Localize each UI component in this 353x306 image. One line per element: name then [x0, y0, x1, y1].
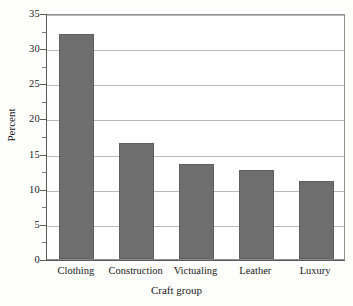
- y-tick-mark: [40, 14, 46, 15]
- bar: [59, 34, 94, 259]
- y-minor-tick-mark: [42, 172, 46, 173]
- bar-chart: 05101520253035 ClothingConstructionVictu…: [0, 0, 353, 306]
- y-tick-mark: [40, 119, 46, 120]
- y-tick-label: 10: [29, 185, 40, 195]
- y-tick-label: 25: [29, 79, 40, 89]
- x-axis-title: Craft group: [0, 284, 353, 296]
- y-tick-label: 35: [29, 9, 40, 19]
- x-axis-line: [46, 260, 345, 261]
- bars-group: [47, 15, 344, 259]
- y-tick-label: 15: [29, 150, 40, 160]
- y-tick-mark: [40, 190, 46, 191]
- y-tick-label: 5: [35, 220, 40, 230]
- y-minor-tick-mark: [42, 207, 46, 208]
- y-tick-label: 30: [29, 44, 40, 54]
- y-minor-tick-mark: [42, 242, 46, 243]
- bar: [179, 164, 214, 259]
- y-minor-tick-mark: [42, 137, 46, 138]
- y-axis-title: Percent: [5, 95, 17, 155]
- y-tick-mark: [40, 49, 46, 50]
- y-minor-tick-mark: [42, 102, 46, 103]
- bar: [239, 170, 274, 259]
- x-tick-label: Luxury: [270, 264, 353, 277]
- y-tick-mark: [40, 155, 46, 156]
- y-tick-mark: [40, 84, 46, 85]
- bar: [119, 143, 154, 259]
- y-minor-tick-mark: [42, 32, 46, 33]
- plot-area: [46, 14, 345, 260]
- y-tick-mark: [40, 225, 46, 226]
- y-tick-label: 20: [29, 114, 40, 124]
- y-minor-tick-mark: [42, 67, 46, 68]
- bar: [299, 181, 334, 259]
- y-axis-line: [46, 14, 47, 261]
- y-tick-mark: [40, 260, 46, 261]
